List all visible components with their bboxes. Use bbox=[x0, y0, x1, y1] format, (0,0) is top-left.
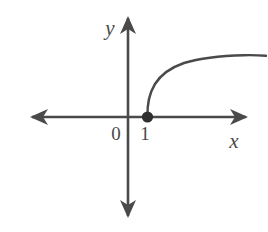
endpoint-dot bbox=[142, 111, 153, 122]
x-axis-label: x bbox=[228, 129, 239, 153]
math-figure: 0 1 x y bbox=[0, 0, 268, 232]
coordinate-plot: 0 1 x y bbox=[0, 0, 268, 232]
log-curve bbox=[147, 55, 266, 117]
x-tick-label-1: 1 bbox=[140, 123, 150, 144]
y-axis-label: y bbox=[103, 16, 115, 40]
origin-label: 0 bbox=[111, 123, 121, 144]
